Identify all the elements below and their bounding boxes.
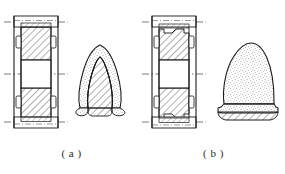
molded-part-b <box>218 43 278 120</box>
lower-block-hatch-a <box>21 88 51 121</box>
part-b-bottom-cut <box>218 112 278 120</box>
side-slot-lower-right-a <box>51 96 56 108</box>
upper-block-hatch-a <box>21 27 51 60</box>
part-a-foot-left <box>76 108 89 116</box>
side-slot-lower-left-b <box>154 96 159 108</box>
top-cap-hatch-a <box>21 23 51 27</box>
side-slot-upper-right-a <box>51 36 56 48</box>
top-cap-hatch-b <box>159 24 189 28</box>
side-slot-upper-left-b <box>154 36 159 48</box>
caption-a: ( a ) <box>0 147 143 159</box>
bottom-cap-hatch-b <box>159 118 189 123</box>
lower-block-stepped-b <box>159 88 189 118</box>
side-slot-lower-right-b <box>189 96 194 108</box>
side-slot-upper-right-b <box>189 36 194 48</box>
upper-block-stepped-b <box>159 29 189 60</box>
side-slot-upper-left-a <box>16 36 21 48</box>
cavity-a <box>21 60 51 88</box>
figure-root: ( a ) ( b ) <box>0 0 285 174</box>
part-a-foot-right <box>111 108 125 116</box>
part-a-base-cut <box>88 108 113 116</box>
cavity-b <box>159 60 189 88</box>
molded-part-a <box>76 45 125 116</box>
bottom-cap-hatch-a <box>21 117 51 122</box>
mold-section-b <box>142 16 206 128</box>
caption-b: ( b ) <box>142 147 285 159</box>
mold-section-a <box>4 16 68 128</box>
side-slot-lower-left-a <box>16 96 21 108</box>
part-b-dome-body <box>223 43 274 104</box>
